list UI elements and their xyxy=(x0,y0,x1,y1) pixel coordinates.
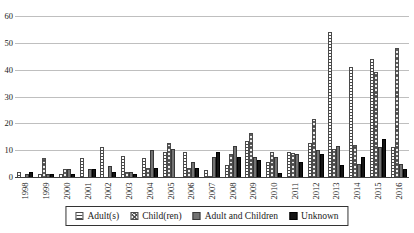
bar-group-2016: 2016 xyxy=(388,16,409,177)
bar-group-1998: 1998 xyxy=(15,16,36,177)
bar-2016-children xyxy=(395,48,399,177)
y-axis-tick-label: 30 xyxy=(0,93,13,101)
bar-group-2002: 2002 xyxy=(98,16,119,177)
legend-item-unknown: Unknown xyxy=(289,211,338,221)
bar-group-1999: 1999 xyxy=(36,16,57,177)
bar-2016-unknown xyxy=(403,169,407,177)
legend-label: Adult(s) xyxy=(87,211,119,221)
bar-group-2005: 2005 xyxy=(160,16,181,177)
legend-swatch-solid-black xyxy=(289,212,297,220)
bar-2010-unknown xyxy=(278,173,282,177)
x-axis-tick-label-1999: 1999 xyxy=(41,183,51,200)
x-axis-tick-label-2013: 2013 xyxy=(331,183,341,200)
legend-label: Adult and Children xyxy=(205,211,278,221)
bar-1998-adults xyxy=(17,172,21,177)
x-axis-tick-label-2015: 2015 xyxy=(373,183,383,200)
bar-group-2014: 2014 xyxy=(347,16,368,177)
x-axis-tick-label-2002: 2002 xyxy=(103,183,113,200)
bar-group-2013: 2013 xyxy=(326,16,347,177)
legend-swatch-diagonal-crosshatch xyxy=(130,212,138,220)
x-axis-tick-label-2006: 2006 xyxy=(186,183,196,200)
bar-group-2004: 2004 xyxy=(139,16,160,177)
bar-2015-unknown xyxy=(382,139,386,177)
bar-1998-unknown xyxy=(29,172,33,177)
bar-group-2012: 2012 xyxy=(305,16,326,177)
bar-group-2000: 2000 xyxy=(56,16,77,177)
bar-2012-unknown xyxy=(320,154,324,177)
bar-group-2008: 2008 xyxy=(222,16,243,177)
legend-item-adults: Adult(s) xyxy=(75,211,119,221)
y-axis-tick-label: 20 xyxy=(0,119,13,127)
bar-2002-adults xyxy=(100,147,104,177)
y-axis-tick-label: 10 xyxy=(0,146,13,154)
bar-2002-unknown xyxy=(112,172,116,177)
bar-2004-unknown xyxy=(154,168,158,177)
bar-group-2009: 2009 xyxy=(243,16,264,177)
legend-swatch-solid-dark-gray xyxy=(193,212,201,220)
x-axis-tick-label-2011: 2011 xyxy=(290,183,300,200)
x-axis-tick-label-2016: 2016 xyxy=(394,183,404,200)
bar-group-2015: 2015 xyxy=(368,16,389,177)
legend: Adult(s)Child(ren)Adult and ChildrenUnkn… xyxy=(65,206,348,226)
bar-2003-unknown xyxy=(133,174,137,177)
x-axis-tick-label-2014: 2014 xyxy=(352,183,362,200)
bar-group-2003: 2003 xyxy=(119,16,140,177)
y-axis-tick-label: 60 xyxy=(0,12,13,20)
x-axis-tick-label-2001: 2001 xyxy=(83,183,93,200)
legend-item-children: Child(ren) xyxy=(130,211,182,221)
bar-group-2001: 2001 xyxy=(77,16,98,177)
bar-2005-adult-children xyxy=(171,149,175,177)
legend-label: Child(ren) xyxy=(142,211,182,221)
bar-2008-unknown xyxy=(237,157,241,177)
bar-2006-unknown xyxy=(195,168,199,177)
bar-group-2011: 2011 xyxy=(285,16,306,177)
bar-2000-unknown xyxy=(71,174,75,177)
x-axis-tick-label-2003: 2003 xyxy=(124,183,134,200)
x-axis-tick-label-2010: 2010 xyxy=(269,183,279,200)
grouped-bar-chart: 1998199920002001200220032004200520062007… xyxy=(0,0,414,233)
plot-area: 1998199920002001200220032004200520062007… xyxy=(15,16,409,178)
y-axis-tick-label: 40 xyxy=(0,66,13,74)
legend-label: Unknown xyxy=(301,211,338,221)
bar-2011-unknown xyxy=(299,162,303,177)
bar-2001-adults xyxy=(80,158,84,177)
bar-group-2006: 2006 xyxy=(181,16,202,177)
bar-2014-unknown xyxy=(361,157,365,177)
x-axis-tick-label-2004: 2004 xyxy=(145,183,155,200)
x-axis-tick-label-2005: 2005 xyxy=(166,183,176,200)
x-axis-tick-label-2000: 2000 xyxy=(62,183,72,200)
bar-1999-unknown xyxy=(50,174,54,177)
bar-2007-unknown xyxy=(216,152,220,177)
legend-item-adult-children: Adult and Children xyxy=(193,211,278,221)
y-axis-tick-label: 50 xyxy=(0,39,13,47)
x-axis-tick-label-2012: 2012 xyxy=(311,183,321,200)
x-axis-tick-label-1998: 1998 xyxy=(20,183,30,200)
x-axis-tick-label-2007: 2007 xyxy=(207,183,217,200)
bar-2013-unknown xyxy=(340,165,344,177)
x-axis-tick-label-2009: 2009 xyxy=(248,183,258,200)
legend-swatch-horizontal-stripes xyxy=(75,212,83,220)
bar-group-2010: 2010 xyxy=(264,16,285,177)
bar-group-2007: 2007 xyxy=(202,16,223,177)
bar-2009-unknown xyxy=(257,160,261,177)
y-axis-tick-label: 0 xyxy=(0,173,13,181)
x-axis-tick-label-2008: 2008 xyxy=(228,183,238,200)
bar-2001-unknown xyxy=(92,169,96,177)
